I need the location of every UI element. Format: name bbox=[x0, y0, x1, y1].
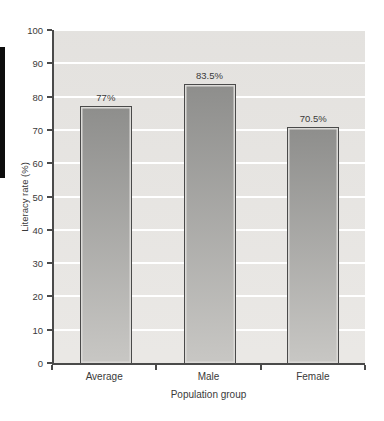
bar-average bbox=[80, 106, 132, 364]
y-axis: 0102030405060708090100 bbox=[0, 30, 52, 363]
y-tick-label-0: 0 bbox=[38, 358, 43, 369]
y-tick-label-40: 40 bbox=[32, 224, 43, 235]
y-tick-label-50: 50 bbox=[32, 191, 43, 202]
y-tick-label-60: 60 bbox=[32, 158, 43, 169]
bar-male bbox=[184, 84, 236, 364]
x-category-labels: Average Male Female bbox=[52, 371, 365, 383]
y-tick-label-90: 90 bbox=[32, 58, 43, 69]
bar-group-female: 70.5% bbox=[287, 30, 339, 363]
x-tick-2 bbox=[260, 365, 262, 370]
x-tick-3 bbox=[364, 365, 366, 370]
x-tick-1 bbox=[155, 365, 157, 370]
screenshot-root: Literacy rate (%) 0102030405060708090100… bbox=[0, 0, 384, 421]
y-tick-label-100: 100 bbox=[27, 25, 43, 36]
bar-female bbox=[287, 127, 339, 364]
y-tick-label-20: 20 bbox=[32, 291, 43, 302]
y-tick-label-30: 30 bbox=[32, 258, 43, 269]
y-tick-label-70: 70 bbox=[32, 124, 43, 135]
x-category-female: Female bbox=[261, 371, 365, 382]
x-category-male: Male bbox=[156, 371, 260, 382]
x-category-average: Average bbox=[52, 371, 156, 382]
bar-group-average: 77% bbox=[80, 30, 132, 363]
x-tick-0 bbox=[51, 365, 53, 370]
plot-area: 77% 83.5% 70.5% bbox=[52, 30, 365, 365]
bar-group-male: 83.5% bbox=[184, 30, 236, 363]
x-axis-title: Population group bbox=[52, 389, 365, 400]
bar-value-label-average: 77% bbox=[80, 93, 132, 103]
bar-value-label-male: 83.5% bbox=[184, 71, 236, 81]
y-tick-label-80: 80 bbox=[32, 91, 43, 102]
y-tick-label-10: 10 bbox=[32, 324, 43, 335]
bar-value-label-female: 70.5% bbox=[287, 114, 339, 124]
